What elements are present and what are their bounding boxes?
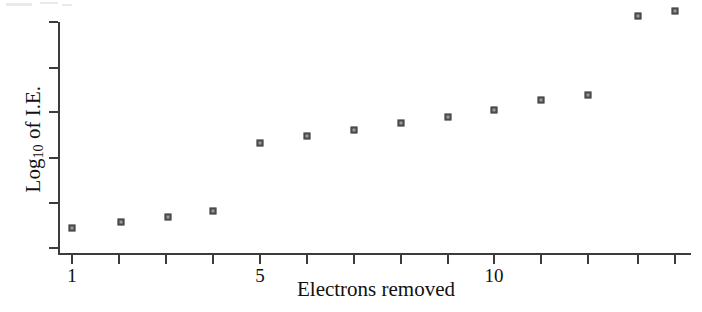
y-axis-title-suffix: of I.E. [21,86,45,144]
x-axis-tick [493,255,495,264]
y-axis-tick [49,202,58,204]
x-axis-tick [165,255,167,264]
x-axis-tick [400,255,402,264]
x-axis-title: Electrons removed [0,279,702,300]
y-axis-title-subscript: 10 [30,144,46,158]
data-point [635,13,642,20]
x-axis-tick [587,255,589,264]
data-point [491,107,498,114]
data-point [672,8,679,15]
x-axis-tick [118,255,120,264]
y-axis-line [58,22,60,255]
y-axis-title: Log10 of I.E. [23,39,45,239]
x-axis-tick [306,255,308,264]
data-point [351,127,358,134]
data-point [165,214,172,221]
data-point [304,133,311,140]
ionization-energy-scatter-figure: 1510 Electrons removed Log10 of I.E. [0,0,702,312]
data-point [398,120,405,127]
data-point [118,219,125,226]
y-axis-tick [49,247,58,249]
data-point [257,140,264,147]
data-point [210,208,217,215]
x-axis-tick [71,255,73,264]
data-point [585,92,592,99]
x-axis-line [58,253,691,255]
x-axis-tick [259,255,261,264]
x-axis-tick [674,255,676,264]
x-axis-tick [540,255,542,264]
data-point [445,114,452,121]
y-axis-tick [49,67,58,69]
x-axis-tick [447,255,449,264]
y-axis-tick [49,157,58,159]
x-axis-title-text: Electrons removed [297,277,455,301]
data-point [69,225,76,232]
y-axis-title-prefix: Log [21,159,45,193]
x-axis-tick [212,255,214,264]
data-point [538,97,545,104]
y-axis-tick [49,21,58,23]
x-axis-tick [353,255,355,264]
y-axis-tick [49,111,58,113]
plot-area: 1510 Electrons removed Log10 of I.E. [0,0,702,312]
x-axis-tick [637,255,639,264]
